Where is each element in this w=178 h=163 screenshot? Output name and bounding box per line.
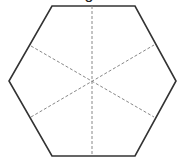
hexagon-diagram — [0, 0, 178, 163]
